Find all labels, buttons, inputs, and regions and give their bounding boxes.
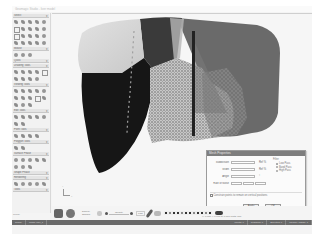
view-top-icon[interactable]	[41, 88, 47, 94]
section-header-edit-tools[interactable]: Edit Tools▾	[13, 109, 49, 113]
view-left-icon[interactable]	[27, 88, 33, 94]
draw-extend-icon[interactable]	[27, 76, 33, 82]
view-center-icon[interactable]	[41, 95, 47, 101]
radio-dot[interactable]	[276, 163, 278, 165]
slider-knob-right[interactable]	[130, 212, 133, 215]
section-header-drawing-tools[interactable]: Drawing Tools▾	[13, 64, 49, 68]
view-iso-icon[interactable]	[20, 95, 26, 101]
render-curvature-icon[interactable]	[13, 181, 19, 187]
brush-icon[interactable]	[154, 211, 161, 216]
noise-input-1[interactable]	[231, 182, 242, 185]
edit-scale-icon[interactable]	[20, 121, 26, 127]
apply-button[interactable]: Apply	[243, 204, 259, 206]
ok-button[interactable]: OK	[265, 204, 281, 206]
select-line-icon[interactable]	[41, 19, 47, 25]
select-box-icon[interactable]	[13, 33, 19, 39]
select-patch-icon[interactable]	[34, 33, 40, 39]
edit-measure-icon[interactable]	[41, 114, 47, 120]
angle-input[interactable]	[231, 175, 255, 178]
section-header-quick[interactable]: Quick▾	[13, 59, 49, 63]
render-material-icon[interactable]	[27, 181, 33, 187]
select-ellipse-icon[interactable]	[34, 19, 40, 25]
render-texture-icon[interactable]	[34, 181, 40, 187]
select-feature-icon[interactable]	[41, 40, 47, 46]
surface-fit-icon[interactable]	[27, 157, 33, 163]
noise-input-2[interactable]	[243, 182, 254, 185]
section-header-select[interactable]: Select▾	[13, 14, 49, 18]
section-header-surface-phase[interactable]: Surface Phase▾	[13, 152, 49, 156]
draw-spline-icon[interactable]	[34, 69, 40, 75]
edit-cut-icon[interactable]	[13, 114, 19, 120]
render-normal-icon[interactable]	[41, 181, 47, 187]
point-color-icon[interactable]	[34, 133, 40, 139]
fast-button[interactable]: Fast	[136, 211, 145, 216]
view-shade-icon[interactable]	[20, 102, 26, 108]
surface-repair-icon[interactable]	[27, 164, 33, 170]
constrain-checkbox[interactable]: Constrain points to remain on vertical p…	[210, 194, 267, 197]
draw-circle-icon[interactable]	[34, 76, 40, 82]
edit-paste-icon[interactable]	[27, 114, 33, 120]
slider-track[interactable]	[109, 214, 129, 215]
radio-high-pass[interactable]: High Pass	[276, 169, 305, 173]
surface-patch-icon[interactable]	[13, 157, 19, 163]
draw-arc-icon[interactable]	[27, 69, 33, 75]
view-light-icon[interactable]	[27, 102, 33, 108]
select-lasso-icon[interactable]	[13, 19, 19, 25]
surface-split-icon[interactable]	[20, 164, 26, 170]
select-none-icon[interactable]	[20, 26, 26, 32]
view-back-icon[interactable]	[20, 88, 26, 94]
select-rect-icon[interactable]	[27, 19, 33, 25]
select-component-icon[interactable]	[34, 40, 40, 46]
view-fit-icon[interactable]	[27, 95, 33, 101]
display-mode[interactable]: Display Shaded	[78, 210, 94, 216]
width-input[interactable]	[231, 168, 255, 171]
select-polyline-icon[interactable]	[27, 40, 33, 46]
edit-delete-icon[interactable]	[34, 114, 40, 120]
color-wheel-icon[interactable]	[66, 209, 75, 218]
point-wrap-icon[interactable]	[27, 133, 33, 139]
point-noise-icon[interactable]	[20, 133, 26, 139]
select-curvature-icon[interactable]	[20, 33, 26, 39]
pen-icon[interactable]	[145, 208, 153, 217]
select-grow-icon[interactable]	[34, 26, 40, 32]
slider-knob-left[interactable]	[105, 212, 108, 215]
draw-point-icon[interactable]	[13, 76, 19, 82]
edit-copy-icon[interactable]	[20, 114, 26, 120]
surface-relax-icon[interactable]	[34, 157, 40, 163]
draw-plane-icon[interactable]	[41, 69, 47, 75]
checkbox-box[interactable]	[210, 194, 213, 197]
noise-input-3[interactable]	[255, 182, 266, 185]
surface-edit-icon[interactable]	[41, 157, 47, 163]
polygon-fill-icon[interactable]	[13, 145, 19, 151]
section-header-mouse[interactable]: Mouse▾	[13, 47, 49, 51]
section-header-rendering[interactable]: Rendering▾	[13, 176, 49, 180]
section-header-shape-phase[interactable]: Shape Phase▾	[13, 171, 49, 175]
paint-icon[interactable]	[54, 209, 63, 218]
surface-grid-icon[interactable]	[20, 157, 26, 163]
select-visible-icon[interactable]	[20, 40, 26, 46]
view-wire-icon[interactable]	[13, 102, 19, 108]
select-all-icon[interactable]	[13, 26, 19, 32]
point-sample-icon[interactable]	[13, 133, 19, 139]
select-border-icon[interactable]	[27, 33, 33, 39]
subdivision-input[interactable]	[231, 161, 255, 164]
select-invert-icon[interactable]	[27, 26, 33, 32]
zoom-icon[interactable]	[27, 52, 33, 58]
view-front-icon[interactable]	[13, 88, 19, 94]
opacity-slider[interactable]: Opacity	[105, 211, 133, 215]
select-brush-icon[interactable]	[20, 19, 26, 25]
section-header-viewing-tools[interactable]: Viewing Tools▾	[13, 83, 49, 87]
section-header-polygon-tools[interactable]: Polygon Tools▾	[13, 140, 49, 144]
draw-trim-icon[interactable]	[20, 76, 26, 82]
view-box-icon[interactable]	[34, 95, 40, 101]
light-icon[interactable]	[97, 211, 102, 216]
select-shrink-icon[interactable]	[41, 26, 47, 32]
polygon-smooth-icon[interactable]	[20, 145, 26, 151]
radio-dot[interactable]	[276, 170, 278, 172]
rotate-icon[interactable]	[13, 52, 19, 58]
section-header-point-tools[interactable]: Point Tools▾	[13, 128, 49, 132]
surface-merge-icon[interactable]	[13, 164, 19, 170]
view-bottom-icon[interactable]	[13, 95, 19, 101]
select-through-icon[interactable]	[13, 40, 19, 46]
render-light-icon[interactable]	[20, 181, 26, 187]
